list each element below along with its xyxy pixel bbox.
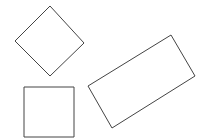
shapes-diagram (0, 0, 204, 138)
rectangle-shape (88, 35, 195, 128)
diamond-shape (15, 6, 84, 76)
square-shape (24, 87, 74, 137)
